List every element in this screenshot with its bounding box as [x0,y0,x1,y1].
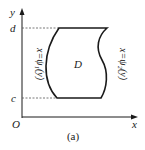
d-label: d [10,22,16,34]
x-axis-label: x [131,118,137,130]
left-boundary-label: x=ψ₁(y) [34,47,46,81]
right-boundary-label: x=ψ₂(y) [117,47,129,81]
y-axis-label: y [9,6,15,18]
region-label: D [73,58,82,70]
origin-label: O [12,118,20,130]
y-axis-arrow-icon [20,8,25,15]
region-diagram: y d c O x D x=ψ₁(y) x=ψ₂(y) (a) [0,0,145,150]
c-label: c [11,92,16,104]
figure-caption: (a) [67,130,80,143]
